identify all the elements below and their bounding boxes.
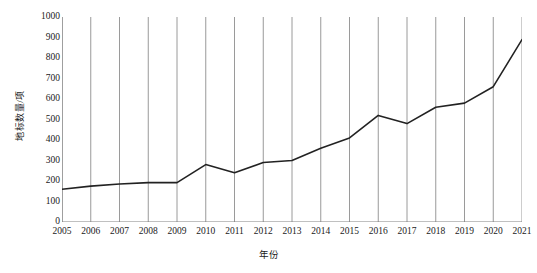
y-axis-tick-label: 900: [46, 33, 60, 43]
y-axis-tick-label: 400: [46, 135, 60, 145]
y-axis-tick-label: 100: [46, 197, 60, 207]
y-axis-tick-label: 500: [46, 115, 60, 125]
x-axis-tick-label: 2012: [254, 226, 273, 236]
x-axis-tick-label: 2011: [225, 226, 244, 236]
y-axis-tick-label: 300: [46, 156, 60, 166]
y-axis-tick-label: 1000: [41, 12, 60, 22]
y-axis-tick-label: 800: [46, 53, 60, 63]
x-axis-tick-label: 2005: [53, 226, 72, 236]
x-axis-tick-label: 2014: [311, 226, 330, 236]
plot-area: [62, 17, 522, 222]
x-axis-tick-label: 2020: [484, 226, 503, 236]
x-axis-tick-label: 2009: [168, 226, 187, 236]
y-axis-tick-label: 700: [46, 74, 60, 84]
x-axis-tick-labels: 2005200620072008200920102011201220132014…: [0, 226, 537, 242]
x-axis-tick-label: 2018: [426, 226, 445, 236]
x-axis-tick-label: 2010: [196, 226, 215, 236]
x-axis-tick-label: 2016: [369, 226, 388, 236]
x-axis-tick-label: 2008: [139, 226, 158, 236]
x-axis-tick-label: 2021: [513, 226, 532, 236]
y-axis-tick-label: 200: [46, 176, 60, 186]
x-axis-tick-label: 2006: [81, 226, 100, 236]
plot-svg: [62, 17, 522, 222]
gridlines: [62, 17, 522, 222]
x-axis-tick-label: 2013: [283, 226, 302, 236]
x-axis-tick-label: 2019: [455, 226, 474, 236]
x-axis-tick-label: 2007: [110, 226, 129, 236]
line-chart: 地标数量/项 01002003004005006007008009001000 …: [0, 0, 537, 273]
y-axis-title-label: 地标数量/项: [13, 90, 26, 141]
x-axis-tick-label: 2015: [340, 226, 359, 236]
y-axis-tick-label: 600: [46, 94, 60, 104]
x-axis-tick-label: 2017: [398, 226, 417, 236]
x-axis-title: 年份: [0, 247, 537, 261]
